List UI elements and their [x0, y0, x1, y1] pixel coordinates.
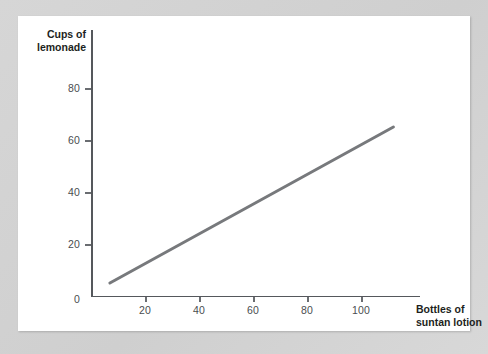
chart-page: Cups of lemonade Bottles of suntan lotio…: [0, 0, 488, 354]
chart-plot-area: Cups of lemonade Bottles of suntan lotio…: [18, 16, 470, 331]
series-layer: [18, 16, 470, 331]
series-line: [110, 127, 394, 283]
chart-card: Cups of lemonade Bottles of suntan lotio…: [18, 16, 470, 331]
